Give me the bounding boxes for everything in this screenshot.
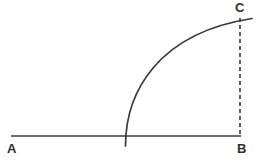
vertex-label-b: B: [237, 142, 246, 155]
geometry-figure: A B C: [0, 0, 263, 165]
vertex-label-c: C: [235, 1, 244, 14]
figure-canvas: [0, 0, 263, 165]
vertex-label-a: A: [7, 142, 16, 155]
